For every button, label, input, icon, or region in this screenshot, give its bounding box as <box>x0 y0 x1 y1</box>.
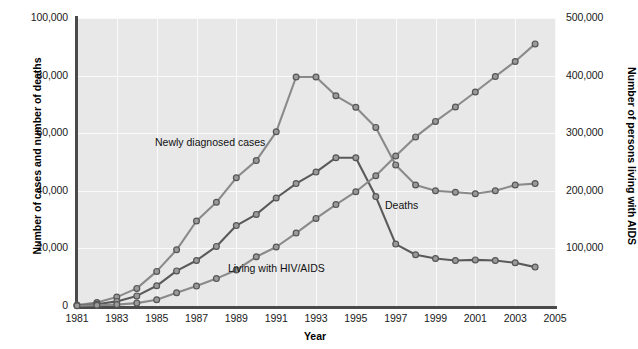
y-axis-right-tick-label: 500,000 <box>566 11 603 23</box>
gridline-vertical <box>436 18 437 306</box>
y-axis-left-tick-label: 100,000 <box>0 11 68 23</box>
series-label-deaths: Deaths <box>385 199 418 211</box>
gridline-vertical <box>475 18 476 306</box>
y-axis-left-tick-label: 0 <box>0 299 68 311</box>
y-axis-left-line <box>75 16 78 309</box>
gridline-vertical <box>197 18 198 306</box>
series-label-living-with-hiv-aids: Living with HIV/AIDS <box>228 262 325 274</box>
gridline-vertical <box>555 18 556 306</box>
gridline-vertical <box>515 18 516 306</box>
y-axis-left-title: Number of cases and number of deaths <box>31 41 43 271</box>
gridline-vertical <box>396 18 397 306</box>
y-axis-right-tick-label: 400,000 <box>566 69 603 81</box>
gridline-vertical <box>157 18 158 306</box>
y-axis-right-tick-label: 100,000 <box>566 241 603 253</box>
y-axis-right-tick-label: 200,000 <box>566 184 603 196</box>
series-label-newly-diagnosed: Newly diagnosed cases <box>155 136 265 148</box>
gridline-vertical <box>117 18 118 306</box>
y-axis-right-title: Number of persons living with AIDS <box>626 41 638 271</box>
y-axis-right-tick-label: 300,000 <box>566 126 603 138</box>
x-axis-line <box>75 306 557 309</box>
gridline-vertical <box>356 18 357 306</box>
x-axis-tick-label: 2005 <box>530 312 580 324</box>
x-axis-title: Year <box>255 330 375 342</box>
